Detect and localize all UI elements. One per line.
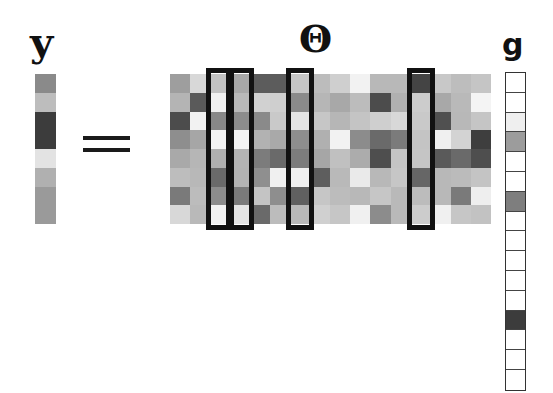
theta-matrix-label: Θ <box>299 20 332 58</box>
theta-matrix-cell <box>270 168 290 187</box>
theta-matrix-cell <box>170 149 190 168</box>
theta-matrix-cell <box>451 168 471 187</box>
theta-matrix-cell <box>230 205 250 224</box>
theta-matrix-cell <box>431 74 451 93</box>
y-vector-cell <box>35 149 56 168</box>
theta-matrix-cell <box>330 187 350 206</box>
g-vector-cell <box>506 192 525 212</box>
theta-matrix-cell <box>190 130 210 149</box>
g-vector-cell <box>506 113 525 133</box>
g-vector-cell <box>506 212 525 232</box>
g-vector-cell <box>506 311 525 331</box>
theta-matrix-cell <box>250 205 270 224</box>
theta-matrix-cell <box>411 205 431 224</box>
theta-matrix-cell <box>391 130 411 149</box>
theta-matrix-cell <box>170 168 190 187</box>
theta-matrix-cell <box>250 74 270 93</box>
y-vector-cell <box>35 205 56 224</box>
y-vector-cell <box>35 168 56 187</box>
theta-matrix-cell <box>391 74 411 93</box>
theta-matrix-cell <box>290 168 310 187</box>
theta-matrix-cell <box>471 112 491 131</box>
theta-matrix-cell <box>391 187 411 206</box>
theta-matrix-cell <box>370 130 390 149</box>
theta-matrix-cell <box>471 168 491 187</box>
theta-matrix-cell <box>170 205 190 224</box>
theta-matrix-cell <box>431 112 451 131</box>
theta-matrix-cell <box>310 93 330 112</box>
theta-matrix-cell <box>310 149 330 168</box>
theta-matrix-cell <box>290 130 310 149</box>
theta-matrix-cell <box>270 130 290 149</box>
theta-matrix-cell <box>411 168 431 187</box>
theta-matrix-cell <box>210 130 230 149</box>
theta-matrix-cell <box>310 112 330 131</box>
theta-matrix-cell <box>391 168 411 187</box>
theta-matrix-cell <box>370 93 390 112</box>
y-vector <box>35 74 56 224</box>
theta-matrix-cell <box>290 149 310 168</box>
theta-matrix-cell <box>391 93 411 112</box>
theta-matrix-cell <box>350 130 370 149</box>
theta-matrix-cell <box>310 168 330 187</box>
y-vector-cell <box>35 130 56 149</box>
g-vector-cell <box>506 132 525 152</box>
g-vector-cell <box>506 271 525 291</box>
g-vector-cell <box>506 291 525 311</box>
theta-matrix-cell <box>330 149 350 168</box>
theta-matrix-cell <box>250 130 270 149</box>
theta-matrix-cell <box>210 168 230 187</box>
theta-matrix-cell <box>350 93 370 112</box>
y-vector-cell <box>35 187 56 206</box>
theta-matrix-cell <box>190 74 210 93</box>
theta-matrix-cell <box>290 93 310 112</box>
theta-matrix-cell <box>431 168 451 187</box>
g-vector-cell <box>506 152 525 172</box>
theta-matrix-cell <box>370 168 390 187</box>
theta-matrix-cell <box>431 93 451 112</box>
theta-matrix-cell <box>210 149 230 168</box>
theta-matrix-cell <box>370 112 390 131</box>
theta-matrix-cell <box>270 74 290 93</box>
theta-matrix-cell <box>350 149 370 168</box>
theta-matrix-cell <box>431 187 451 206</box>
theta-matrix-cell <box>471 149 491 168</box>
theta-matrix-cell <box>230 149 250 168</box>
theta-matrix-cell <box>250 93 270 112</box>
theta-matrix-cell <box>451 93 471 112</box>
theta-matrix-cell <box>290 205 310 224</box>
theta-matrix-cell <box>471 130 491 149</box>
theta-matrix-cell <box>270 112 290 131</box>
theta-matrix-cell <box>411 149 431 168</box>
theta-matrix-cell <box>210 205 230 224</box>
theta-matrix-cell <box>350 74 370 93</box>
theta-matrix-cell <box>290 187 310 206</box>
theta-matrix-cell <box>250 168 270 187</box>
theta-matrix-cell <box>310 205 330 224</box>
theta-matrix-cell <box>451 149 471 168</box>
theta-matrix-cell <box>350 205 370 224</box>
theta-matrix-cell <box>270 93 290 112</box>
theta-matrix-cell <box>210 112 230 131</box>
y-vector-cell <box>35 112 56 131</box>
theta-matrix-cell <box>431 130 451 149</box>
theta-matrix-cell <box>230 74 250 93</box>
theta-matrix-cell <box>270 205 290 224</box>
theta-matrix-cell <box>391 112 411 131</box>
theta-matrix-cell <box>451 205 471 224</box>
theta-matrix-cell <box>170 130 190 149</box>
g-vector-cell <box>506 73 525 93</box>
g-vector-cell <box>506 172 525 192</box>
theta-matrix-cell <box>210 187 230 206</box>
theta-matrix-cell <box>471 187 491 206</box>
theta-matrix-cell <box>170 187 190 206</box>
theta-matrix-cell <box>190 187 210 206</box>
theta-matrix-cell <box>290 74 310 93</box>
theta-matrix-cell <box>451 74 471 93</box>
theta-matrix-cell <box>210 93 230 112</box>
theta-matrix-cell <box>391 205 411 224</box>
theta-matrix-cell <box>451 130 471 149</box>
theta-matrix-cell <box>250 112 270 131</box>
theta-matrix-cell <box>370 74 390 93</box>
theta-matrix-cell <box>190 149 210 168</box>
